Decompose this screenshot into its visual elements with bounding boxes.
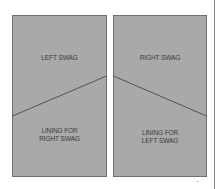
scan-artifact-dot [197,181,198,182]
right-diagonal-cut-line [114,76,207,116]
page-edge-rule [214,0,215,189]
left-diagonal-cut-line [13,76,107,116]
diagonal-cut-lines [0,0,221,189]
